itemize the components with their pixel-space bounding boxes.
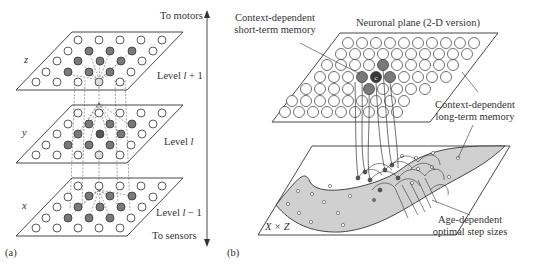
step-label-line1: Age-dependent [438, 214, 502, 225]
arrow-up-icon [204, 10, 210, 18]
neurons-bottom [32, 182, 166, 232]
to-motors-label: To motors [160, 10, 203, 21]
ltm-label-line2: long-term memory [435, 111, 515, 122]
level-var-x: x [21, 200, 27, 211]
level-prefix: Level [164, 136, 191, 147]
level-label-l-minus-1: Level l − 1 [156, 207, 202, 218]
arrow-down-icon [204, 239, 210, 247]
step-leader [432, 200, 470, 215]
panel-b-tag: (b) [227, 247, 240, 259]
level-prefix: Level [157, 70, 184, 81]
neuronal-plane-title: Neuronal plane (2-D version) [356, 17, 480, 29]
level-label-l-plus-1: Level l + 1 [157, 70, 203, 81]
level-prefix: Level [156, 207, 183, 218]
level-suffix: − 1 [185, 207, 201, 218]
level-var: l [191, 136, 194, 147]
figure: To motors To sensors z y x Level l + 1 L… [0, 0, 536, 265]
panel-b: c [258, 33, 510, 235]
level-suffix: + 1 [186, 70, 202, 81]
level-label-l: Level l [164, 136, 194, 147]
ltm-label-line1: Context-dependent [435, 99, 515, 110]
step-label-line2: optimal step sizes [433, 226, 508, 237]
panel-a-tag: (a) [5, 247, 17, 259]
neurons-middle [32, 109, 166, 159]
to-sensors-label: To sensors [152, 230, 196, 241]
stm-label-line2: short-term memory [234, 24, 316, 35]
level-var-y: y [21, 127, 27, 138]
level-var-z: z [23, 54, 28, 65]
center-neuron-label: c [374, 74, 377, 82]
stm-label-line1: Context-dependent [235, 12, 315, 23]
ltm-leader [462, 72, 478, 92]
bottom-plane-label: X × Z [264, 221, 290, 232]
